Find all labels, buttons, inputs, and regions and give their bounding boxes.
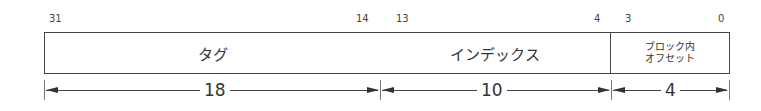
tag-label: タグ bbox=[198, 43, 228, 64]
tick-mid2 bbox=[611, 80, 612, 100]
index-label: インデックス bbox=[450, 43, 540, 64]
tag-lo-bit: 14 bbox=[356, 13, 369, 24]
index-lo-bit: 4 bbox=[594, 13, 600, 24]
arrow-left-icon bbox=[613, 87, 625, 93]
offset-label-line2: オフセット bbox=[645, 53, 695, 65]
arrow-left-icon bbox=[46, 87, 58, 93]
index-width: 10 bbox=[477, 80, 507, 100]
offset-field: ブロック内 オフセット bbox=[610, 32, 730, 74]
arrow-right-icon bbox=[598, 87, 610, 93]
arrow-right-icon bbox=[716, 87, 728, 93]
tag-width: 18 bbox=[200, 80, 230, 100]
arrow-left-icon bbox=[382, 87, 394, 93]
index-hi-bit: 13 bbox=[396, 13, 409, 24]
tag-hi-bit: 31 bbox=[49, 13, 62, 24]
tick-left bbox=[44, 80, 45, 100]
offset-width: 4 bbox=[661, 80, 680, 100]
index-field: インデックス bbox=[380, 32, 612, 74]
tick-mid1 bbox=[380, 80, 381, 100]
arrow-right-icon bbox=[367, 87, 379, 93]
tick-right bbox=[729, 80, 730, 100]
offset-lo-bit: 0 bbox=[718, 13, 724, 24]
offset-hi-bit: 3 bbox=[625, 13, 631, 24]
tag-field: タグ bbox=[44, 32, 381, 74]
offset-label-line1: ブロック内 bbox=[645, 41, 695, 53]
